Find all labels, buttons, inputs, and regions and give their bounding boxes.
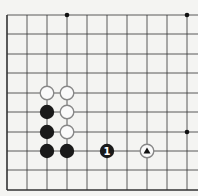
- star-point: [185, 130, 190, 135]
- white-stone: [40, 86, 54, 100]
- star-point: [65, 13, 70, 18]
- go-board-diagram: 1: [0, 0, 198, 196]
- star-point: [185, 13, 190, 18]
- black-stone: [60, 144, 74, 158]
- black-stone: [40, 125, 54, 139]
- white-stone: [60, 86, 74, 100]
- white-stone: [60, 105, 74, 119]
- black-stone: 1: [100, 144, 114, 158]
- move-number: 1: [104, 146, 111, 157]
- white-stone: [140, 144, 154, 158]
- grid-lines: [7, 15, 198, 190]
- black-stone: [40, 144, 54, 158]
- white-stone: [60, 125, 74, 139]
- stones: 1: [40, 86, 154, 158]
- black-stone: [40, 105, 54, 119]
